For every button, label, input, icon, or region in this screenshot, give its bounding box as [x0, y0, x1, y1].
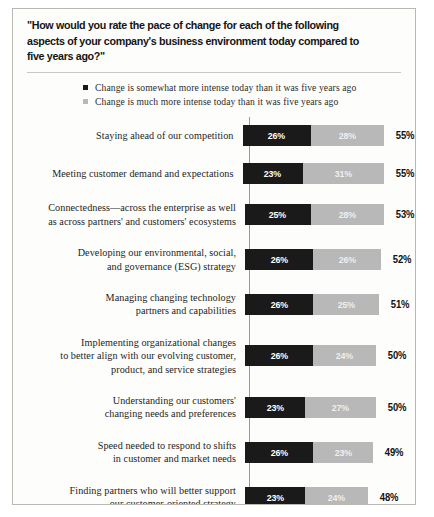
row-total-label: 50%: [388, 402, 406, 413]
category-label-line: partners and capabilities: [13, 304, 236, 317]
bar-value-label: 31%: [335, 168, 352, 179]
row-total-label: 55%: [396, 130, 414, 141]
bar-value-label: 26%: [270, 299, 287, 310]
chart-row: Meeting customer demand and expectations…: [13, 155, 415, 193]
bar-segment-much-more-intense: 26%: [313, 249, 381, 270]
category-label: Developing our environmental, social,and…: [13, 246, 245, 273]
bar-segment-much-more-intense: 31%: [303, 163, 384, 184]
bar-value-label: 25%: [337, 299, 354, 310]
row-total-label: 49%: [385, 447, 403, 458]
bar-value-label: 23%: [267, 402, 284, 413]
bar-value-label: 24%: [336, 350, 353, 361]
category-label-line: Speed needed to respond to shifts: [13, 439, 236, 452]
stacked-bar: 23%31%: [243, 163, 384, 184]
category-label-line: changing needs and preferences: [13, 407, 236, 420]
category-label-line: Understanding our customers': [13, 394, 236, 407]
bar-value-label: 23%: [264, 168, 281, 179]
row-total-label: 51%: [390, 299, 408, 310]
category-label-line: in customer and market needs: [13, 452, 236, 465]
bar-segment-much-more-intense: 25%: [313, 294, 379, 315]
category-label-line: product, and service strategies: [13, 363, 236, 376]
bar-value-label: 26%: [270, 350, 287, 361]
bar-segment-much-more-intense: 24%: [305, 487, 368, 505]
stacked-bar: 26%28%: [243, 125, 384, 146]
chart-card: "How would you rate the pace of change f…: [12, 8, 416, 505]
bar-value-label: 28%: [339, 209, 356, 220]
legend-label: Change is somewhat more intense today th…: [95, 82, 356, 93]
chart-plot-area: Staying ahead of our competition26%28%55…: [13, 117, 415, 506]
bar-segment-much-more-intense: 28%: [311, 125, 384, 146]
category-label-line: as across partners' and customers' ecosy…: [13, 215, 236, 228]
category-label-line: Meeting customer demand and expectations: [13, 167, 234, 180]
legend-item: Change is somewhat more intense today th…: [83, 81, 415, 94]
bar-value-label: 26%: [270, 447, 287, 458]
stacked-bar: 23%24%: [245, 487, 368, 505]
bar-value-label: 26%: [339, 254, 356, 265]
row-total-label: 55%: [396, 168, 414, 179]
legend-swatch-icon: [83, 99, 88, 104]
bar-value-label: 24%: [328, 492, 345, 503]
category-label: Understanding our customers'changing nee…: [13, 394, 245, 421]
chart-row: Connectedness—across the enterprise as w…: [13, 193, 415, 238]
chart-row: Finding partners who will better support…: [13, 475, 415, 505]
category-label: Connectedness—across the enterprise as w…: [13, 201, 245, 228]
bar-segment-much-more-intense: 24%: [313, 345, 376, 366]
category-label: Meeting customer demand and expectations: [13, 167, 243, 180]
category-label-line: and governance (ESG) strategy: [13, 260, 236, 273]
bar-segment-somewhat-more-intense: 23%: [245, 487, 305, 505]
bar-value-label: 26%: [270, 254, 287, 265]
bar-value-label: 23%: [335, 447, 352, 458]
legend-label: Change is much more intense today than i…: [95, 96, 338, 107]
chart-row: Implementing organizational changesto be…: [13, 327, 415, 385]
bar-segment-somewhat-more-intense: 26%: [245, 442, 313, 463]
bar-value-label: 28%: [339, 130, 356, 141]
category-label-line: Staying ahead of our competition: [13, 129, 234, 142]
category-label-line: Managing changing technology: [13, 291, 236, 304]
bar-segment-somewhat-more-intense: 23%: [243, 163, 303, 184]
bar-value-label: 25%: [269, 209, 286, 220]
stacked-bar: 26%23%: [245, 442, 373, 463]
row-total-label: 50%: [388, 350, 406, 361]
bar-segment-somewhat-more-intense: 25%: [245, 204, 311, 225]
category-label: Implementing organizational changesto be…: [13, 336, 245, 376]
stacked-bar: 26%25%: [245, 294, 379, 315]
bar-value-label: 27%: [332, 402, 349, 413]
row-total-label: 53%: [396, 209, 414, 220]
title-divider: [27, 72, 401, 73]
chart-legend: Change is somewhat more intense today th…: [83, 81, 415, 108]
chart-title: "How would you rate the pace of change f…: [27, 18, 379, 65]
category-label: Managing changing technologypartners and…: [13, 291, 245, 318]
stacked-bar: 25%28%: [245, 204, 384, 225]
chart-row: Managing changing technologypartners and…: [13, 282, 415, 327]
row-total-label: 48%: [380, 492, 398, 503]
row-total-label: 52%: [393, 254, 411, 265]
stacked-bar: 26%24%: [245, 345, 376, 366]
category-label: Staying ahead of our competition: [13, 129, 243, 142]
category-label-line: Connectedness—across the enterprise as w…: [13, 201, 236, 214]
category-label-line: Implementing organizational changes: [13, 336, 236, 349]
chart-row: Developing our environmental, social,and…: [13, 237, 415, 282]
chart-row: Staying ahead of our competition26%28%55…: [13, 117, 415, 155]
category-label: Speed needed to respond to shiftsin cust…: [13, 439, 245, 466]
category-label-line: to better align with our evolving custom…: [13, 349, 236, 362]
bar-segment-much-more-intense: 28%: [311, 204, 384, 225]
chart-row: Speed needed to respond to shiftsin cust…: [13, 430, 415, 475]
bar-segment-somewhat-more-intense: 26%: [245, 249, 313, 270]
stacked-bar: 23%27%: [245, 397, 376, 418]
bar-segment-somewhat-more-intense: 23%: [245, 397, 305, 418]
bar-segment-somewhat-more-intense: 26%: [243, 125, 311, 146]
bar-segment-somewhat-more-intense: 26%: [245, 294, 313, 315]
bar-segment-much-more-intense: 23%: [313, 442, 373, 463]
legend-swatch-icon: [83, 85, 88, 90]
bar-segment-somewhat-more-intense: 26%: [245, 345, 313, 366]
category-label-line: Developing our environmental, social,: [13, 246, 236, 259]
category-label-line: Finding partners who will better support: [13, 484, 236, 497]
category-label-line: our customer-oriented strategy: [13, 497, 236, 505]
stacked-bar: 26%26%: [245, 249, 381, 270]
chart-row: Understanding our customers'changing nee…: [13, 385, 415, 430]
legend-item: Change is much more intense today than i…: [83, 95, 415, 108]
bar-value-label: 26%: [268, 130, 285, 141]
category-label: Finding partners who will better support…: [13, 484, 245, 505]
bar-segment-much-more-intense: 27%: [305, 397, 376, 418]
bar-value-label: 23%: [267, 492, 284, 503]
